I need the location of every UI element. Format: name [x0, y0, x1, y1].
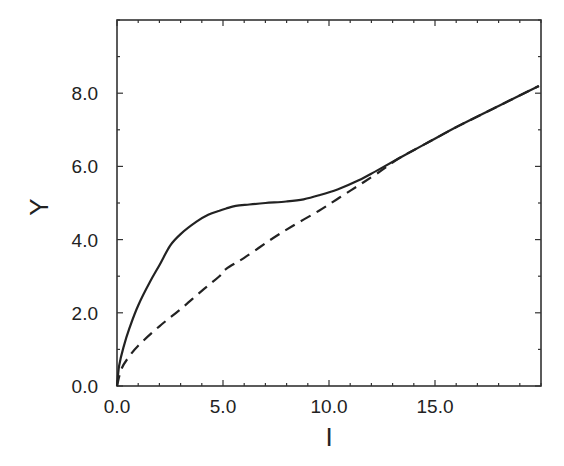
y-tick-label: 8.0	[72, 83, 98, 104]
y-tick-label: 4.0	[72, 230, 98, 251]
plot-frame	[117, 20, 541, 386]
x-axis-label: I	[325, 422, 332, 452]
plot-border	[117, 20, 541, 386]
y-tick-label: 2.0	[72, 303, 98, 324]
series-dashed-line	[117, 86, 539, 386]
x-axis-ticks	[117, 20, 541, 386]
x-tick-label: 0.0	[104, 396, 130, 417]
line-chart: 0.05.010.015.0 0.02.04.06.08.0 I Y	[0, 0, 564, 466]
y-axis-ticks	[117, 20, 541, 386]
x-tick-label: 15.0	[417, 396, 454, 417]
series-solid-line	[117, 86, 539, 386]
x-axis-tick-labels: 0.05.010.015.0	[104, 396, 454, 417]
y-tick-label: 6.0	[72, 156, 98, 177]
x-tick-label: 10.0	[311, 396, 348, 417]
x-tick-label: 5.0	[210, 396, 236, 417]
y-axis-tick-labels: 0.02.04.06.08.0	[72, 83, 98, 397]
y-axis-label: Y	[24, 198, 54, 215]
data-series	[117, 86, 539, 386]
y-tick-label: 0.0	[72, 376, 98, 397]
